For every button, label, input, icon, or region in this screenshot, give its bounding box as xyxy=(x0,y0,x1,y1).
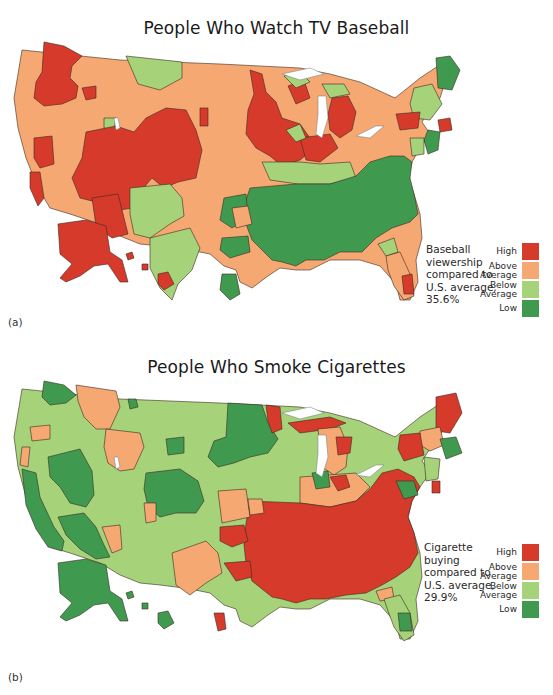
region-nj-spot xyxy=(432,481,440,493)
legend-swatch-high xyxy=(522,544,539,561)
region-kansas-above xyxy=(218,489,250,523)
region-nyc xyxy=(424,130,440,154)
legend-item-high: High xyxy=(455,544,545,561)
map-title: People Who Smoke Cigarettes xyxy=(0,357,553,377)
region-hawaii-1 xyxy=(126,591,134,599)
region-west-ne xyxy=(200,108,208,126)
region-se-florida xyxy=(398,613,412,631)
legend-swatch-above-average xyxy=(522,563,539,580)
region-maine xyxy=(436,56,460,90)
legend-swatch-low xyxy=(522,300,539,317)
panel-label: (a) xyxy=(8,316,23,328)
region-colorado-above xyxy=(144,503,156,523)
region-hawaii-1 xyxy=(126,252,134,260)
legend-item-below-average: Below Average xyxy=(455,281,545,298)
region-montana-spot xyxy=(128,399,138,409)
choropleth-map-cigarettes xyxy=(0,377,553,667)
legend-label: Above Average xyxy=(480,262,517,280)
map-regions xyxy=(14,381,462,641)
legend-swatch-below-average xyxy=(522,582,539,599)
region-upstate-ny xyxy=(396,112,420,130)
legend-label: Above Average xyxy=(480,563,517,581)
legend-item-high: High xyxy=(455,243,545,260)
map-legend: High Above Average Below Average Low xyxy=(455,243,545,319)
region-s-texas-red xyxy=(214,613,226,631)
legend-label: Below Average xyxy=(480,281,517,299)
region-n-california xyxy=(34,136,54,168)
map-legend: High Above Average Below Average Low xyxy=(455,544,545,620)
map-title: People Who Watch TV Baseball xyxy=(0,18,553,38)
region-hawaii-2 xyxy=(142,264,148,270)
legend-item-low: Low xyxy=(455,601,545,618)
region-pa-below xyxy=(410,138,424,156)
legend-swatch-high xyxy=(522,243,539,260)
legend-item-above-average: Above Average xyxy=(455,563,545,580)
legend-swatch-low xyxy=(522,601,539,618)
legend-label: High xyxy=(496,548,517,557)
region-hawaii-3 xyxy=(158,611,174,629)
map-regions xyxy=(14,42,460,300)
legend-swatch-below-average xyxy=(522,281,539,298)
panel-label: (b) xyxy=(8,671,23,683)
legend-swatch-above-average xyxy=(522,262,539,279)
legend-item-low: Low xyxy=(455,300,545,317)
region-ct-ny xyxy=(424,457,440,481)
legend-item-below-average: Below Average xyxy=(455,582,545,599)
legend-item-above-average: Above Average xyxy=(455,262,545,279)
legend-label: High xyxy=(496,247,517,256)
map-panel-baseball: People Who Watch TV Baseball xyxy=(0,0,553,345)
region-oregon xyxy=(30,425,50,441)
region-w-texas xyxy=(150,228,200,300)
region-kansas-above2 xyxy=(248,499,264,515)
region-s-texas xyxy=(220,274,240,300)
region-hawaii-2 xyxy=(142,603,148,609)
legend-label: Low xyxy=(499,605,517,614)
region-wyoming-spot xyxy=(166,437,184,455)
region-massachusetts xyxy=(440,437,462,459)
region-se-florida xyxy=(402,274,414,294)
map-panel-cigarettes: People Who Smoke Cigarettes xyxy=(0,345,553,695)
region-michigan-red xyxy=(336,437,352,455)
legend-label: Low xyxy=(499,304,517,313)
region-boston xyxy=(438,118,452,132)
legend-label: Below Average xyxy=(480,582,517,600)
region-oregon-coast xyxy=(20,447,30,467)
